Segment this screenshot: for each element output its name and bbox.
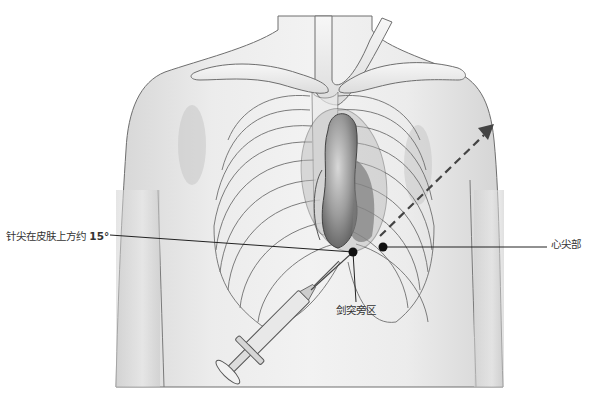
apex-label: 心尖部 — [551, 238, 581, 250]
subxiphoid-label: 剑突旁区 — [336, 304, 376, 316]
apex-point-icon — [379, 243, 388, 252]
chest-anatomy-illustration — [0, 0, 589, 398]
needle-angle-label: 针尖在皮肤上方约 15° — [6, 230, 109, 242]
subxiphoid-point-icon — [349, 248, 358, 257]
needle-angle-value: 15° — [89, 230, 109, 242]
needle-angle-text: 针尖在皮肤上方约 — [6, 230, 89, 242]
